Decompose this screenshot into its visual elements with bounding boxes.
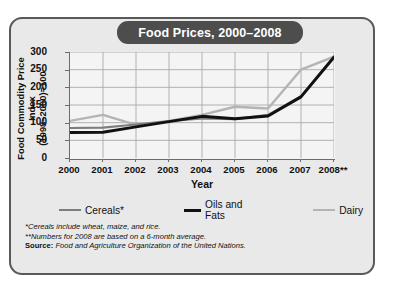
y-tick-label: 150 (13, 99, 47, 110)
plot-area (69, 52, 335, 160)
chart-legend: Cereals* Oils and Fats Dairy (25, 202, 363, 218)
y-tick-label: 200 (13, 81, 47, 92)
footnote-cereals: *Cereals include wheat, maize, and rice. (25, 222, 365, 232)
y-tick-label: 0 (13, 152, 47, 163)
page-title: Food Prices, 2000–2008 (138, 26, 281, 40)
legend-label-dairy: Dairy (339, 205, 363, 216)
legend-swatch-cereals (59, 209, 81, 211)
x-axis-title: Year (69, 178, 335, 190)
y-tick-label: 100 (13, 116, 47, 127)
legend-item-dairy: Dairy (313, 205, 363, 216)
footnote-2008: **Numbers for 2008 are based on a 6-mont… (25, 232, 365, 242)
y-tick-label: 250 (13, 63, 47, 74)
y-tick-label: 50 (13, 134, 47, 145)
source-line: Source: Food and Agriculture Organizatio… (25, 241, 365, 251)
source-label: Source: (25, 241, 53, 250)
legend-label-oils-and-fats: Oils and Fats (205, 199, 251, 221)
legend-swatch-dairy (313, 209, 335, 211)
plot-wrapper: Food Commodity Price Index (1998–2000)=1… (11, 46, 377, 196)
legend-item-oils-and-fats: Oils and Fats (184, 199, 251, 221)
y-tick-label: 300 (13, 46, 47, 57)
legend-swatch-oils-and-fats (184, 209, 201, 212)
chart-svg (70, 52, 334, 158)
chart-footnotes: *Cereals include wheat, maize, and rice.… (25, 222, 365, 251)
source-text: Food and Agriculture Organization of the… (53, 241, 246, 250)
chart-title-pill: Food Prices, 2000–2008 (117, 21, 303, 44)
x-tick-label: 2008** (311, 164, 355, 175)
chart-card: Food Prices, 2000–2008 Food Commodity Pr… (9, 17, 375, 275)
legend-item-cereals: Cereals* (59, 205, 124, 216)
legend-label-cereals: Cereals* (85, 205, 124, 216)
